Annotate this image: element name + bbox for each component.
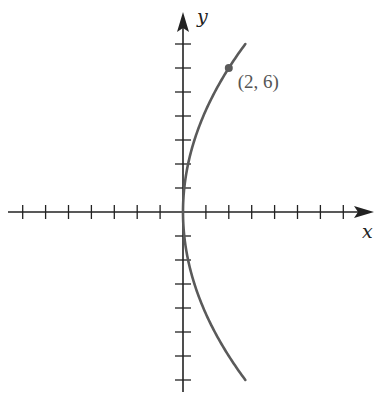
- point-label: (2, 6): [238, 71, 279, 93]
- point-marker: [225, 64, 233, 72]
- parabola-plot: (2, 6) x y: [0, 0, 378, 406]
- x-axis-label: x: [362, 220, 373, 242]
- x-axis: [8, 205, 374, 219]
- y-axis-label: y: [196, 5, 208, 27]
